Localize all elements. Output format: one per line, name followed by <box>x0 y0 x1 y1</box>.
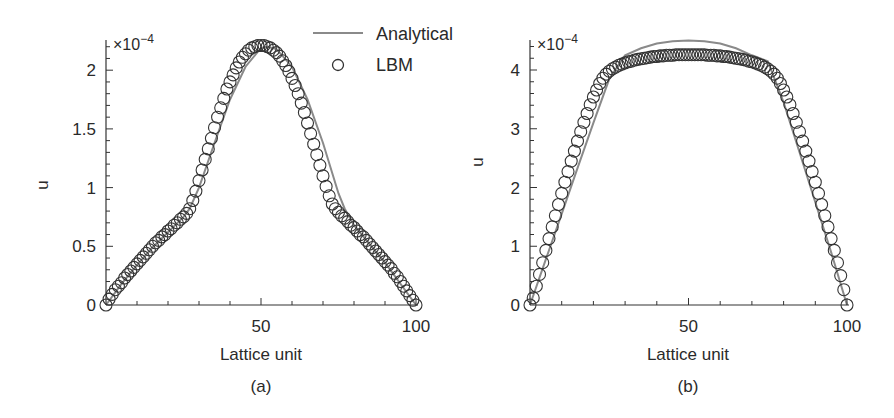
y-tick-label: 0 <box>87 296 96 315</box>
panel-a-chart: 5010000.511.52 ×10−4 u Lattice unit (a) <box>33 32 430 396</box>
y-tick-label: 1 <box>87 179 96 198</box>
lbm-data-point <box>286 72 298 84</box>
lbm-data-point <box>125 265 137 277</box>
lbm-data-point <box>122 269 134 281</box>
lbm-data-point <box>112 280 124 292</box>
y-tick-label: 1 <box>511 237 520 256</box>
y-tick-label: 2 <box>87 61 96 80</box>
lbm-data-point <box>587 91 599 103</box>
y-tick-label: 3 <box>511 120 520 139</box>
analytical-curve <box>530 41 847 305</box>
legend: Analytical LBM <box>313 24 453 75</box>
lbm-data-point <box>540 244 552 256</box>
panel-b-y-multiplier: ×10−4 <box>537 32 578 53</box>
lbm-data-point <box>549 210 561 222</box>
panel-a-x-axis-title: Lattice unit <box>220 345 302 364</box>
lbm-data-point <box>835 270 847 282</box>
legend-lbm-label: LBM <box>376 55 413 75</box>
panel-a-label: (a) <box>251 377 272 396</box>
panel-b-label: (b) <box>678 377 699 396</box>
lbm-data-point <box>227 69 239 81</box>
y-tick-label: 2 <box>511 179 520 198</box>
analytical-curve <box>106 47 416 305</box>
figure: 5010000.511.52 ×10−4 u Lattice unit (a) … <box>0 0 894 418</box>
lbm-data-point <box>813 187 825 199</box>
x-tick-label: 100 <box>402 317 430 336</box>
x-tick-label: 50 <box>679 317 698 336</box>
legend-lbm-circle-icon <box>333 60 344 71</box>
lbm-data-point <box>591 84 603 96</box>
legend-analytical-label: Analytical <box>376 24 453 44</box>
panel-b-y-axis-title: u <box>468 157 487 166</box>
lbm-data-point <box>224 76 236 88</box>
panel-a-y-multiplier: ×10−4 <box>113 32 154 53</box>
panel-b-x-axis-title: Lattice unit <box>647 345 729 364</box>
lbm-data-point <box>553 199 565 211</box>
panel-a-y-axis-title: u <box>33 180 52 189</box>
panel-a-plot-data <box>100 40 422 312</box>
lbm-data-point <box>816 199 828 211</box>
y-tick-label: 0 <box>511 296 520 315</box>
panel-a-axes: 5010000.511.52 <box>72 40 430 336</box>
lbm-data-point <box>556 187 568 199</box>
panel-b-plot-data <box>524 41 853 311</box>
y-tick-label: 4 <box>511 61 520 80</box>
y-tick-label: 1.5 <box>72 120 96 139</box>
panel-b-chart: 5010001234 ×10−4 u Lattice unit (b) <box>468 32 861 396</box>
lbm-data-point <box>809 176 821 188</box>
x-tick-label: 100 <box>833 317 861 336</box>
lbm-data-point <box>289 80 301 92</box>
y-tick-label: 0.5 <box>72 237 96 256</box>
lbm-data-point <box>382 259 394 271</box>
x-tick-label: 50 <box>252 317 271 336</box>
